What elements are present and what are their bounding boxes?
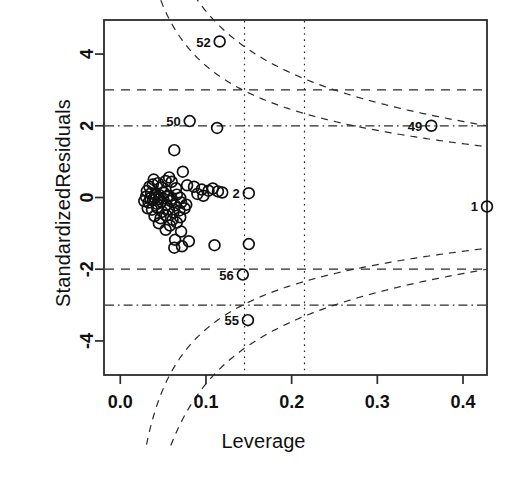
x-tick-label: 0.3 — [365, 392, 390, 412]
x-tick-label: 0.1 — [193, 392, 218, 412]
point-label-2: 2 — [233, 186, 240, 201]
data-points — [139, 36, 493, 325]
cooks-distance-curves — [147, 0, 487, 446]
point-label-49: 49 — [408, 119, 422, 134]
point-label-56: 56 — [219, 268, 233, 283]
point-label-1: 1 — [471, 199, 478, 214]
y-tick-label: -4 — [77, 333, 97, 349]
x-tick-label: 0.0 — [108, 392, 133, 412]
scatter-plot: 525024915655 0.00.10.20.30.4 420-2-4 — [0, 0, 527, 480]
point-label-55: 55 — [224, 313, 238, 328]
point-labels: 525024915655 — [166, 35, 478, 329]
y-axis-ticks: 420-2-4 — [77, 49, 104, 349]
y-tick-label: -2 — [77, 261, 97, 277]
y-tick-label: 2 — [77, 121, 97, 131]
point-label-50: 50 — [166, 114, 180, 129]
y-tick-label: 0 — [77, 192, 97, 202]
y-tick-label: 4 — [77, 49, 97, 59]
x-tick-label: 0.2 — [279, 392, 304, 412]
chart-root: 525024915655 0.00.10.20.30.4 420-2-4 Sta… — [0, 0, 527, 480]
x-axis-ticks: 0.00.10.20.30.4 — [108, 375, 476, 412]
point-label-52: 52 — [196, 35, 210, 50]
x-tick-label: 0.4 — [450, 392, 475, 412]
x-axis-title: Leverage — [0, 430, 527, 453]
x-axis-title-text: Leverage — [221, 430, 305, 453]
